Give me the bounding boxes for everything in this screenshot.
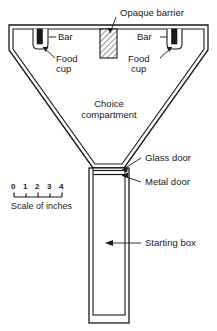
bar-right-label: Bar: [137, 31, 152, 42]
glass-door-label: Glass door: [145, 152, 191, 163]
food-cup-right-label-line2: cup: [131, 63, 146, 74]
apparatus-drawing: [0, 0, 217, 331]
scale-bar: [14, 193, 62, 198]
food-cup-left-label-line2: cup: [56, 63, 71, 74]
metal-door-label: Metal door: [145, 176, 190, 187]
starting-box: [89, 168, 129, 323]
opaque-barrier: [100, 29, 117, 58]
choice-compartment-label-line1: Choice: [69, 98, 149, 109]
scale-tick-label-2: 2: [35, 182, 39, 191]
starting-box-label: Starting box: [145, 237, 196, 248]
scale-caption: Scale of inches: [11, 201, 72, 211]
scale-tick-label-4: 4: [59, 182, 63, 191]
scale-tick-label-0: 0: [11, 182, 15, 191]
choice-compartment-label-line2: compartment: [69, 109, 149, 120]
left-bar: [37, 29, 43, 44]
opaque-barrier-label: Opaque barrier: [120, 7, 184, 18]
scale-tick-label-1: 1: [23, 182, 27, 191]
right-bar: [172, 29, 178, 44]
bar-left-label: Bar: [58, 31, 73, 42]
scale-tick-label-3: 3: [47, 182, 51, 191]
choice-apparatus-figure: Opaque barrier Bar Bar Food cup Food cup…: [0, 0, 217, 331]
